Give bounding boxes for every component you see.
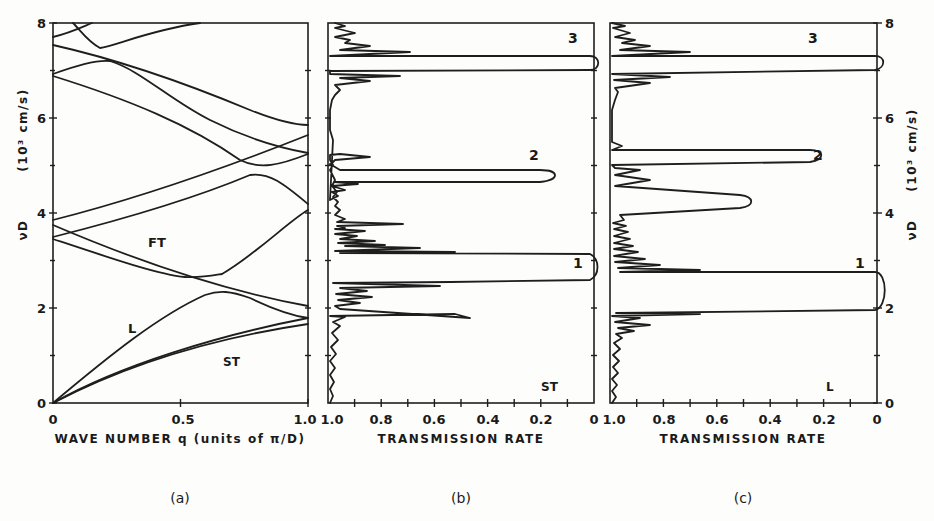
c-xtick-0.8: 0.8: [652, 412, 675, 427]
c-ytick-6: 6: [885, 111, 894, 126]
a-ytick-4: 4: [37, 206, 46, 221]
c-xtick-0.2: 0.2: [812, 412, 835, 427]
panel-b-ticks: [325, 71, 597, 408]
a-ytick-2: 2: [37, 301, 46, 316]
c-xtick-0.6: 0.6: [705, 412, 728, 427]
c-xtick-0.4: 0.4: [758, 412, 781, 427]
ft-lower-branch: [53, 210, 308, 277]
b-xtick-0.2: 0.2: [529, 412, 552, 427]
a-xtick-1: 1.0: [293, 412, 316, 427]
b-xtick-0.4: 0.4: [476, 412, 499, 427]
panel-b-transmission-st: 1.0 0.8 0.6 0.4 0.2 0 TRANSMISSION RATE …: [320, 23, 598, 506]
panel-a-frame: [53, 23, 308, 403]
dispersion-curves: [53, 23, 308, 403]
c-xtick-1.0: 1.0: [602, 412, 625, 427]
c-ylabel-main: νD: [905, 219, 919, 240]
c-mode-label: L: [826, 380, 834, 394]
label-l: L: [128, 321, 136, 336]
st-branch-1: [53, 324, 308, 403]
b-mode-label: ST: [541, 380, 559, 394]
c-peak-2-label: 2: [813, 147, 823, 163]
branch-8a: [53, 23, 92, 37]
a-xtick-05: 0.5: [171, 412, 194, 427]
figure-canvas: 8 6 4 2 0 νD (10³ cm/s) 0 0.5 1.0 WAVE N…: [0, 0, 934, 521]
panel-tag-b: (b): [451, 490, 471, 506]
l-transmission-curve: [612, 23, 885, 403]
c-ylabel-unit: (10³ cm/s): [905, 108, 919, 191]
b-xtick-0: 0: [589, 412, 598, 427]
st-transmission-curve: [330, 23, 598, 403]
a-ytick-0: 0: [37, 396, 46, 411]
ft-upper-branch: [53, 225, 308, 306]
branch-7c: [53, 45, 308, 125]
label-ft: FT: [148, 235, 166, 250]
b-peak-2-label: 2: [529, 147, 539, 163]
a-ytick-8: 8: [37, 16, 46, 31]
c-xtick-0: 0: [872, 412, 881, 427]
panel-c-ticks: [637, 23, 882, 407]
a-ylabel-main: νD: [16, 219, 30, 240]
b-xtick-1.0: 1.0: [320, 412, 343, 427]
a-xlabel: WAVE NUMBER q (units of π/D): [55, 432, 306, 446]
c-ytick-0: 0: [885, 396, 894, 411]
b-xtick-0.8: 0.8: [369, 412, 392, 427]
panel-c-transmission-l: 8 6 4 2 0 νD (10³ cm/s) 1.0 0.8 0.6 0.4 …: [602, 16, 919, 506]
c-xlabel: TRANSMISSION RATE: [660, 432, 827, 446]
panel-tag-c: (c): [734, 490, 753, 506]
a-ytick-6: 6: [37, 111, 46, 126]
a-ylabel-unit: (10³ cm/s): [16, 88, 30, 171]
branch-4a: [53, 175, 308, 237]
a-xtick-0: 0: [48, 412, 57, 427]
c-ytick-2: 2: [885, 301, 894, 316]
panel-tag-a: (a): [170, 490, 190, 506]
branch-8b: [73, 23, 200, 48]
c-peak-3-label: 3: [808, 30, 818, 46]
branch-7b: [53, 61, 308, 153]
b-xlabel: TRANSMISSION RATE: [378, 432, 545, 446]
c-ytick-4: 4: [885, 206, 894, 221]
panel-a-dispersion: 8 6 4 2 0 νD (10³ cm/s) 0 0.5 1.0 WAVE N…: [16, 16, 317, 506]
label-st: ST: [223, 355, 241, 369]
b-peak-1-label: 1: [573, 255, 583, 271]
c-peak-1-label: 1: [855, 255, 865, 271]
b-peak-3-label: 3: [568, 30, 578, 46]
l-branch: [53, 292, 308, 403]
b-xtick-0.6: 0.6: [422, 412, 445, 427]
c-ytick-8: 8: [885, 16, 894, 31]
branch-7a: [53, 76, 308, 165]
